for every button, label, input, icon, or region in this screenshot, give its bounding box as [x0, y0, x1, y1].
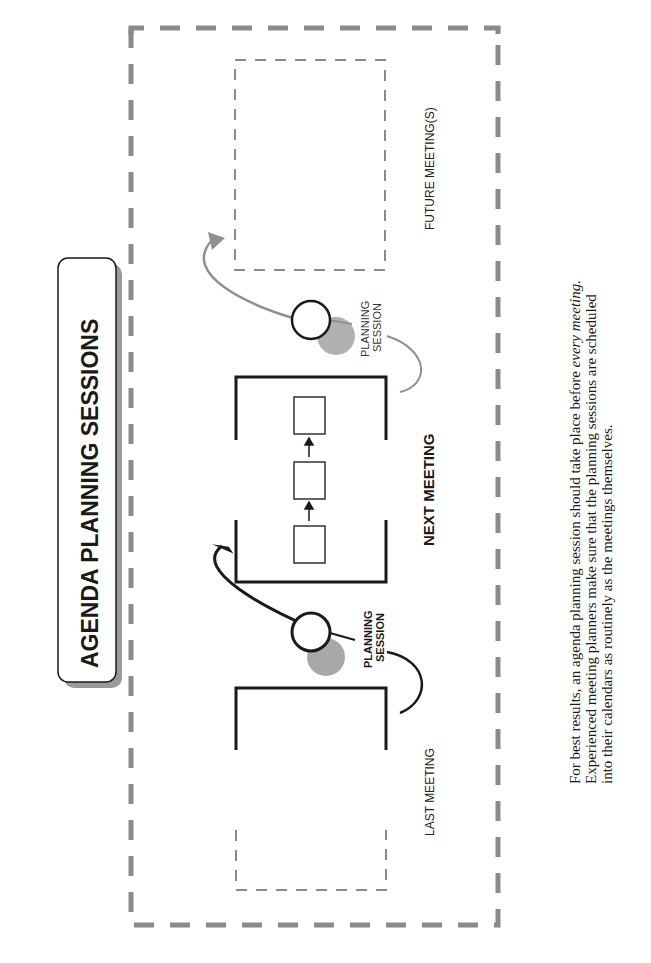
session-circle: [292, 301, 330, 339]
page-title: AGENDA PLANNING SESSIONS: [77, 319, 103, 668]
label-planning-session-1-line1: PLANNING: [362, 611, 374, 668]
label-future-meetings: FUTURE MEETING(S): [423, 107, 437, 230]
label-last-meeting: LAST MEETING: [423, 748, 437, 836]
caption-line-3: into their calendars as routinely as the…: [599, 425, 615, 784]
agenda-items: [294, 397, 325, 563]
caption-line-2: Experienced meeting planners make sure t…: [583, 294, 599, 784]
session-circle: [292, 613, 330, 651]
label-planning-session-1-line2: SESSION: [374, 613, 386, 662]
caption-line-1: For best results, an agenda planning ses…: [567, 280, 583, 784]
agenda-planning-diagram: AGENDA PLANNING SESSIONS LAST MEETING NE…: [0, 0, 651, 963]
title-box: AGENDA PLANNING SESSIONS: [58, 258, 122, 688]
agenda-item-3: [294, 397, 325, 434]
agenda-item-2: [294, 462, 325, 499]
last-meeting-bracket: [236, 688, 386, 750]
future-meeting-box: [235, 60, 385, 270]
caption: For best results, an agenda planning ses…: [567, 280, 615, 784]
agenda-item-1: [294, 526, 325, 563]
arrowhead-future: [208, 232, 225, 250]
label-planning-session-2-line1: PLANNING: [359, 301, 371, 357]
label-next-meeting: NEXT MEETING: [420, 433, 437, 546]
planning-session-2: [204, 232, 421, 392]
link-from-last-meeting: [387, 652, 422, 713]
past-meeting-dashed-box: [236, 830, 386, 890]
caption-line-1-text: For best results, an agenda planning ses…: [567, 367, 583, 784]
arrow-to-future-meeting: [204, 240, 293, 318]
link-from-next-meeting: [387, 336, 421, 392]
label-planning-session-2-line2: SESSION: [371, 303, 383, 352]
caption-line-1-italic: every meeting.: [567, 280, 583, 367]
